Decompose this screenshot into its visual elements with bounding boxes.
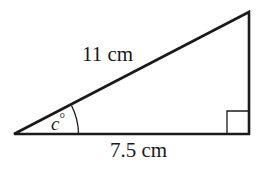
triangle-shape (14, 12, 249, 134)
base-label: 7.5 cm (110, 138, 167, 162)
degree-symbol: ° (59, 111, 65, 126)
right-angle-marker (227, 111, 249, 134)
angle-arc (72, 106, 79, 135)
angle-label: c° (51, 111, 65, 134)
triangle-diagram: 11 cm 7.5 cm c° (0, 0, 272, 173)
hypotenuse-label: 11 cm (82, 42, 133, 66)
